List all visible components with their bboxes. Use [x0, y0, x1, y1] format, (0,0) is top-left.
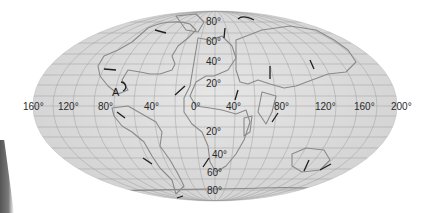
longitude-label: 160°: [23, 101, 44, 112]
latitude-label: 60°: [207, 167, 222, 178]
latitude-label: 40°: [212, 149, 227, 160]
world-map: A 160° 120° 80° 40° 0° 40° 80° 120° 160°…: [0, 0, 422, 213]
longitude-label: 40°: [144, 101, 159, 112]
latitude-label: 60°: [206, 36, 221, 47]
latitude-label: 20°: [206, 78, 221, 89]
marker-a-label: A: [112, 86, 120, 98]
latitude-label: 20°: [206, 126, 221, 137]
latitude-label: 80°: [206, 16, 221, 27]
latitude-label: 40°: [206, 56, 221, 67]
longitude-label: 120°: [315, 101, 336, 112]
longitude-label: 120°: [58, 101, 79, 112]
longitude-label: 80°: [274, 101, 289, 112]
latitude-label: 80°: [207, 185, 222, 196]
longitude-label: 200°: [391, 101, 412, 112]
longitude-label: 40°: [226, 101, 241, 112]
map-svg: A 160° 120° 80° 40° 0° 40° 80° 120° 160°…: [0, 0, 422, 213]
longitude-label: 80°: [98, 101, 113, 112]
longitude-label: 0°: [191, 101, 201, 112]
longitude-label: 160°: [354, 101, 375, 112]
